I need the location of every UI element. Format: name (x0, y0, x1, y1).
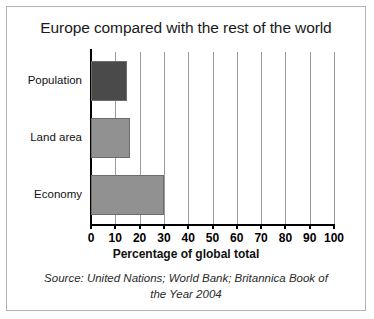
x-axis-tick-label: 30 (157, 231, 170, 245)
x-axis-tick (90, 224, 92, 229)
bar-economy (91, 175, 164, 215)
x-axis-tick-label: 70 (254, 231, 267, 245)
x-axis-tick-label: 80 (279, 231, 292, 245)
x-axis-tick (333, 224, 335, 229)
category-label-land-area: Land area (30, 132, 82, 144)
x-axis-tick (212, 224, 214, 229)
x-axis-tick-label: 0 (88, 231, 95, 245)
x-axis-tick (236, 224, 238, 229)
source-note: Source: United Nations; World Bank; Brit… (21, 271, 351, 302)
gridline (310, 52, 311, 224)
x-axis-tick (139, 224, 141, 229)
x-axis-title: Percentage of global total (7, 247, 365, 261)
x-axis-tick (187, 224, 189, 229)
x-axis-tick (163, 224, 165, 229)
x-axis-tick-label: 10 (109, 231, 122, 245)
x-axis-tick (309, 224, 311, 229)
x-axis-tick-label: 90 (303, 231, 316, 245)
source-line-2: the Year 2004 (21, 287, 351, 303)
gridline (213, 52, 214, 224)
x-axis-tick (260, 224, 262, 229)
x-axis-tick (114, 224, 116, 229)
chart-figure: Europe compared with the rest of the wor… (6, 6, 366, 311)
gridline (285, 52, 286, 224)
gridline (188, 52, 189, 224)
x-axis-tick-label: 20 (133, 231, 146, 245)
x-axis-tick-label: 50 (206, 231, 219, 245)
category-label-economy: Economy (34, 189, 82, 201)
category-label-population: Population (28, 75, 82, 87)
gridline (237, 52, 238, 224)
bar-land-area (91, 118, 130, 158)
x-axis-tick (284, 224, 286, 229)
bar-population (91, 61, 127, 101)
gridline (164, 52, 165, 224)
x-axis-tick-label: 40 (182, 231, 195, 245)
x-axis-tick-label: 100 (324, 231, 344, 245)
gridline (261, 52, 262, 224)
chart-title: Europe compared with the rest of the wor… (7, 19, 365, 37)
source-line-1: Source: United Nations; World Bank; Brit… (21, 271, 351, 287)
gridline (334, 52, 335, 224)
plot-area: 0102030405060708090100PopulationLand are… (91, 52, 334, 224)
x-axis-tick-label: 60 (230, 231, 243, 245)
